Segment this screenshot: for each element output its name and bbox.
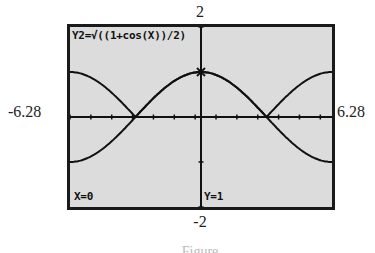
xmax-label: 6.28 [337,104,365,120]
figure-caption: Figure [140,244,260,253]
trace-cursor-icon [196,67,206,77]
graph-plot [70,27,332,207]
equation-label: Y2=√((1+cos(X))/2) [72,30,186,41]
axes [70,27,332,207]
trace-x-value: X=0 [74,191,93,202]
xmin-label: -6.28 [8,104,41,120]
calculator-screen: Y2=√((1+cos(X))/2) X=0 Y=1 [67,24,335,210]
ymax-label: 2 [190,4,210,20]
trace-y-value: Y=1 [204,191,223,202]
ymin-label: -2 [185,214,215,230]
